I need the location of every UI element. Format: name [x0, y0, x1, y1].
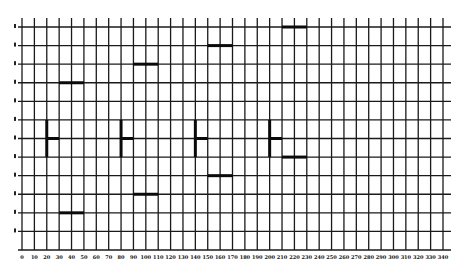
- x-tick-label: 330: [425, 254, 436, 260]
- t-marker: [270, 120, 282, 157]
- x-tick-label: 150: [203, 254, 214, 260]
- y-axis-tick-labels: [14, 24, 16, 232]
- x-tick-label: 310: [401, 254, 412, 260]
- x-tick-label: 210: [277, 254, 288, 260]
- x-tick-label: 140: [190, 254, 201, 260]
- x-tick-label: 120: [165, 254, 176, 260]
- y-tick-label-mark: [14, 98, 16, 102]
- x-tick-label: 50: [80, 254, 87, 260]
- x-axis-tick-labels: 0102030405060708090100110120130140150160…: [20, 254, 448, 260]
- grid-lines: [18, 18, 451, 250]
- x-tick-label: 290: [376, 254, 387, 260]
- x-tick-label: 190: [252, 254, 263, 260]
- x-tick-label: 0: [20, 254, 24, 260]
- x-tick-label: 70: [105, 254, 112, 260]
- y-tick-label-mark: [14, 61, 16, 65]
- y-tick-label-mark: [14, 80, 16, 84]
- t-marker: [121, 120, 133, 157]
- y-tick-label-mark: [14, 173, 16, 177]
- x-tick-label: 280: [363, 254, 374, 260]
- y-tick-label-mark: [14, 43, 16, 47]
- y-tick-label-mark: [14, 24, 16, 28]
- x-tick-label: 160: [215, 254, 226, 260]
- x-tick-label: 230: [302, 254, 313, 260]
- chart-canvas: 0102030405060708090100110120130140150160…: [0, 0, 465, 273]
- t-marker: [47, 120, 59, 157]
- x-tick-label: 340: [438, 254, 449, 260]
- x-tick-label: 30: [56, 254, 63, 260]
- x-tick-label: 130: [178, 254, 189, 260]
- x-tick-label: 40: [68, 254, 75, 260]
- t-marker: [195, 120, 207, 157]
- x-tick-label: 300: [388, 254, 399, 260]
- x-tick-label: 220: [289, 254, 300, 260]
- x-tick-label: 260: [339, 254, 350, 260]
- x-tick-label: 20: [43, 254, 50, 260]
- x-tick-label: 110: [153, 254, 164, 260]
- x-tick-label: 240: [314, 254, 325, 260]
- x-tick-label: 80: [118, 254, 125, 260]
- x-tick-label: 270: [351, 254, 362, 260]
- x-tick-label: 170: [227, 254, 238, 260]
- x-tick-label: 60: [93, 254, 100, 260]
- x-tick-label: 320: [413, 254, 424, 260]
- x-tick-label: 100: [141, 254, 152, 260]
- y-tick-label-mark: [14, 210, 16, 214]
- y-tick-label-mark: [14, 228, 16, 232]
- x-tick-label: 180: [240, 254, 251, 260]
- x-tick-label: 10: [31, 254, 38, 260]
- y-tick-label-mark: [14, 191, 16, 195]
- y-tick-label-mark: [14, 154, 16, 158]
- y-tick-label-mark: [14, 136, 16, 140]
- x-tick-label: 250: [326, 254, 337, 260]
- x-tick-label: 90: [130, 254, 137, 260]
- y-tick-label-mark: [14, 117, 16, 121]
- x-tick-label: 200: [264, 254, 275, 260]
